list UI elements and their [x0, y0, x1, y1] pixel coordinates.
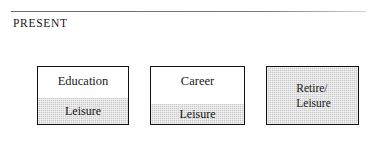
- stage-box-retire[interactable]: Retire/ Leisure: [266, 66, 359, 125]
- header-rule: [11, 11, 366, 12]
- stage-box-career[interactable]: Career Leisure: [150, 66, 245, 125]
- leisure-band-career: Leisure: [151, 104, 244, 124]
- page-title: PRESENT: [13, 16, 68, 30]
- stage-box-education[interactable]: Education Leisure: [37, 66, 129, 125]
- leisure-band-label-career: Leisure: [180, 107, 216, 121]
- stage-label-career: Career: [151, 74, 244, 89]
- stage-label-retire-line1: Retire/: [296, 81, 330, 96]
- stage-label-education: Education: [38, 74, 128, 89]
- stage-label-retire: Retire/ Leisure: [294, 81, 330, 111]
- leisure-band-label-education: Leisure: [65, 104, 101, 118]
- stage-label-retire-line2: Leisure: [296, 96, 330, 111]
- leisure-band-education: Leisure: [38, 98, 128, 124]
- life-stage-flow-diagram: Education Leisure Career Leisure Retire/…: [0, 66, 374, 126]
